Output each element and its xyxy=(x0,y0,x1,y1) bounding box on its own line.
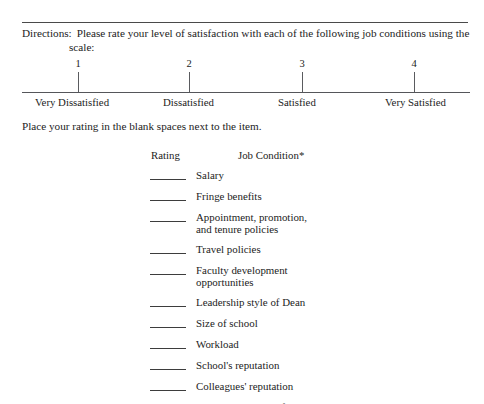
scale-label-1: Very Dissatisfied xyxy=(35,96,109,109)
scale-tick-1 xyxy=(78,72,79,92)
scale-number-1: 1 xyxy=(66,58,90,70)
scale-number-4: 4 xyxy=(402,58,426,70)
rating-blank-input[interactable] xyxy=(150,348,186,349)
column-header-job-condition: Job Condition* xyxy=(238,149,304,162)
list-item: School's reputation xyxy=(0,360,484,381)
list-item: Travel policies xyxy=(0,244,484,265)
job-condition-label: Fringe benefits xyxy=(196,191,262,203)
scale-label-2: Dissatisfied xyxy=(163,96,214,109)
directions-block: Directions: Please rate your level of sa… xyxy=(22,27,472,54)
scale-label-4: Very Satisfied xyxy=(385,96,446,109)
scale-tick-3 xyxy=(302,72,303,92)
job-condition-label: Size of school xyxy=(196,318,258,330)
job-condition-label: Workload xyxy=(196,339,239,351)
list-item: Faculty development opportunities xyxy=(0,265,484,297)
rating-blank-input[interactable] xyxy=(150,327,186,328)
job-condition-label: School's reputation xyxy=(196,360,279,372)
scale-label-3: Satisfied xyxy=(278,96,316,109)
job-condition-label: Faculty development opportunities xyxy=(196,265,288,288)
rating-blank-input[interactable] xyxy=(150,390,186,391)
directions-label: Directions: xyxy=(22,27,72,41)
rating-blank-input[interactable] xyxy=(150,200,186,201)
list-item: Appointment, promotion, and tenure polic… xyxy=(0,212,484,244)
scale-number-3: 3 xyxy=(290,58,314,70)
survey-page: Directions: Please rate your level of sa… xyxy=(0,0,484,404)
job-condition-label: Colleagues' reputation xyxy=(196,381,293,393)
job-condition-label: Salary xyxy=(196,170,224,182)
rating-blank-input[interactable] xyxy=(150,274,186,275)
rating-blank-input[interactable] xyxy=(150,369,186,370)
job-condition-label: Appointment, promotion, and tenure polic… xyxy=(196,212,307,235)
scale-number-2: 2 xyxy=(177,58,201,70)
rating-blank-input[interactable] xyxy=(150,179,186,180)
rating-scale: 1Very Dissatisfied2Dissatisfied3Satisfie… xyxy=(0,58,484,112)
rating-blank-input[interactable] xyxy=(150,306,186,307)
list-item: Fringe benefits xyxy=(0,191,484,212)
job-condition-label: Travel policies xyxy=(196,244,261,256)
job-condition-list: SalaryFringe benefitsAppointment, promot… xyxy=(0,170,484,404)
scale-tick-4 xyxy=(414,72,415,92)
column-header-rating: Rating xyxy=(151,149,180,162)
scale-axis-line xyxy=(22,92,470,93)
list-item: Leadership style of Dean xyxy=(0,297,484,318)
rating-blank-input[interactable] xyxy=(150,253,186,254)
rating-blank-input[interactable] xyxy=(150,221,186,222)
place-rating-instruction: Place your rating in the blank spaces ne… xyxy=(22,120,262,133)
list-item: Salary xyxy=(0,170,484,191)
list-item: Size of school xyxy=(0,318,484,339)
column-headers: Rating Job Condition* xyxy=(0,149,484,163)
job-condition-label: Leadership style of Dean xyxy=(196,297,305,309)
list-item: Workload xyxy=(0,339,484,360)
directions-text: Please rate your level of satisfaction w… xyxy=(69,27,472,54)
scale-tick-2 xyxy=(189,72,190,92)
top-divider xyxy=(22,22,468,23)
list-item: Colleagues' reputation xyxy=(0,381,484,402)
